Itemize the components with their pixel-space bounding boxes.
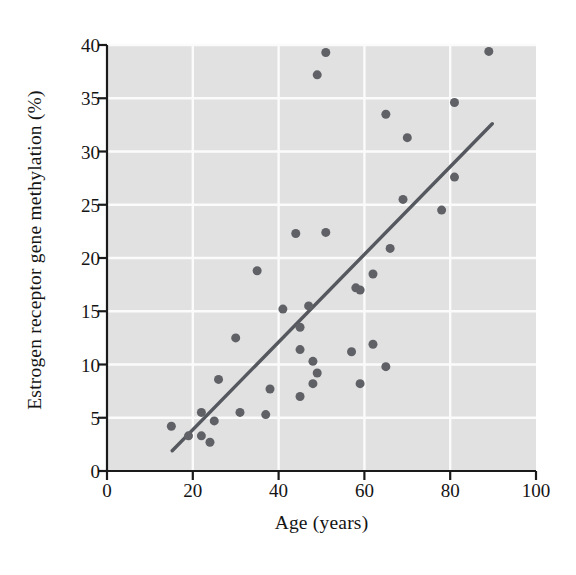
y-axis-tick-label: 25 — [56, 196, 100, 215]
data-point-marker — [308, 379, 317, 388]
data-point-marker — [197, 408, 206, 417]
data-point-marker — [381, 362, 390, 371]
data-point-marker — [308, 357, 317, 366]
data-point-marker — [291, 229, 300, 238]
data-point-marker — [450, 173, 459, 182]
data-point-marker — [321, 228, 330, 237]
data-point-marker — [437, 206, 446, 215]
data-point-marker — [484, 47, 493, 56]
data-point-marker — [321, 48, 330, 57]
data-point-marker — [253, 266, 262, 275]
data-point-marker — [450, 98, 459, 107]
data-point-marker — [347, 347, 356, 356]
y-axis-tick-label: 30 — [56, 143, 100, 162]
data-point-marker — [368, 269, 377, 278]
x-axis-title: Age (years) — [107, 512, 536, 534]
data-point-marker — [313, 70, 322, 79]
data-point-marker — [231, 333, 240, 342]
y-axis-tick-label: 35 — [56, 89, 100, 108]
y-axis-title: Estrogen receptor gene methylation (%) — [20, 37, 50, 463]
data-point-marker — [296, 392, 305, 401]
data-point-marker — [184, 431, 193, 440]
y-axis-tick-label: 0 — [56, 462, 100, 481]
x-axis-tick-label: 60 — [341, 481, 387, 500]
data-point-marker — [266, 385, 275, 394]
data-point-marker — [403, 133, 412, 142]
x-axis-tick-label: 80 — [427, 481, 473, 500]
y-axis-tick-label: 15 — [56, 302, 100, 321]
data-point-marker — [278, 305, 287, 314]
x-axis-tick-label: 0 — [84, 481, 130, 500]
data-point-marker — [356, 379, 365, 388]
chart-figure: 0510152025303540 020406080100 Estrogen r… — [0, 0, 576, 575]
plot-area — [98, 45, 536, 480]
data-point-marker — [296, 345, 305, 354]
x-axis-tick-label: 100 — [513, 481, 559, 500]
x-axis-tick-label: 20 — [170, 481, 216, 500]
data-point-marker — [381, 110, 390, 119]
data-point-marker — [210, 416, 219, 425]
y-axis-tick-label: 40 — [56, 36, 100, 55]
data-point-marker — [205, 438, 214, 447]
y-axis-tick-label: 20 — [56, 249, 100, 268]
x-axis-tick-label: 40 — [256, 481, 302, 500]
y-axis-tick-label: 5 — [56, 409, 100, 428]
data-point-marker — [386, 244, 395, 253]
data-point-marker — [399, 195, 408, 204]
data-point-marker — [197, 431, 206, 440]
data-point-marker — [167, 422, 176, 431]
data-point-marker — [356, 285, 365, 294]
data-point-marker — [261, 410, 270, 419]
y-axis-tick-label: 10 — [56, 356, 100, 375]
data-point-marker — [313, 369, 322, 378]
data-point-marker — [368, 340, 377, 349]
x-axis-tick-labels: 020406080100 — [0, 481, 576, 511]
data-point-marker — [296, 323, 305, 332]
data-point-marker — [235, 408, 244, 417]
data-point-marker — [304, 301, 313, 310]
data-point-marker — [214, 375, 223, 384]
